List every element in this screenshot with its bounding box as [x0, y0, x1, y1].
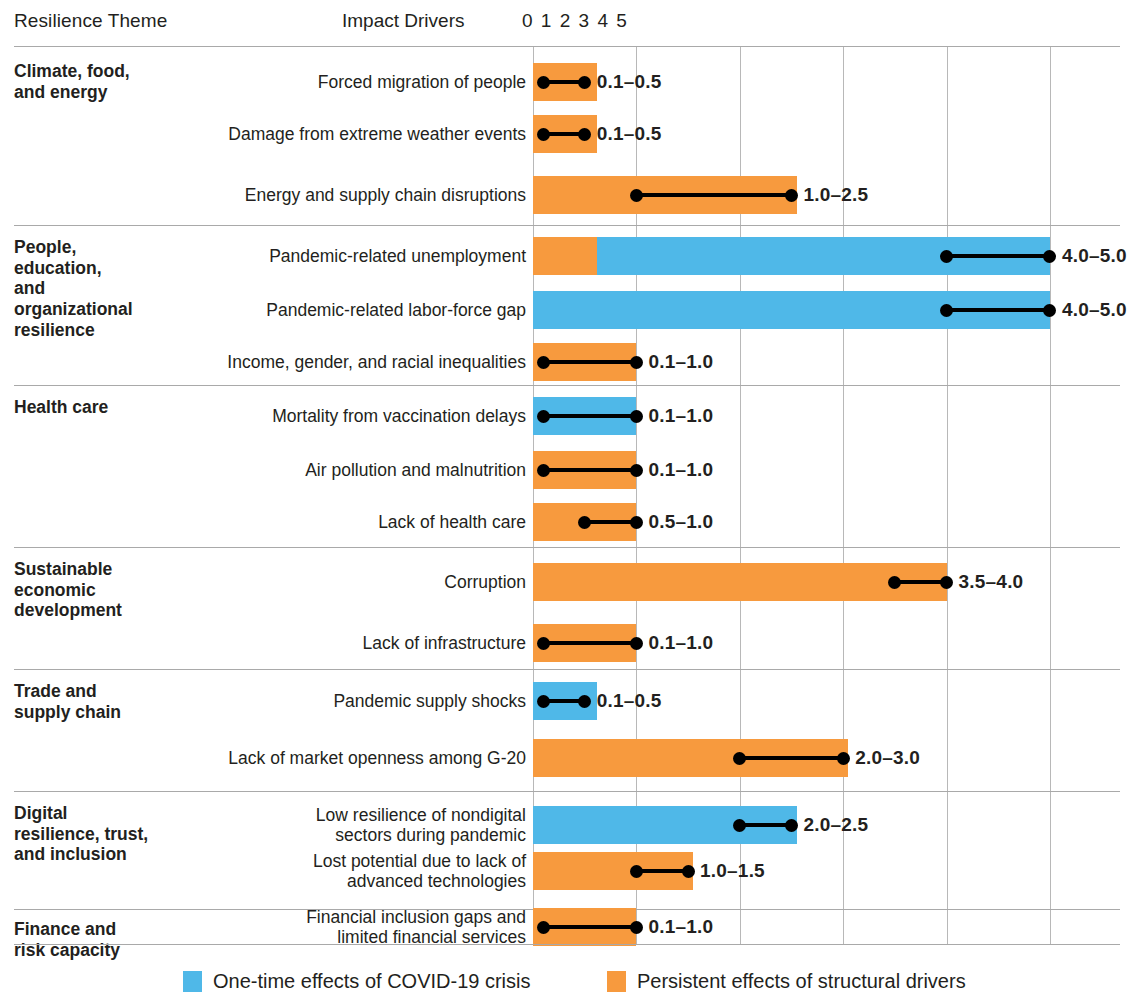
range-dot-high [785, 819, 798, 832]
range-value-label: 2.0–3.0 [855, 747, 920, 769]
impact-driver-label: Forced migration of people [96, 72, 526, 92]
chart-row: Low resilience of nondigitalsectors duri… [0, 806, 1134, 844]
axis-tick-labels: 0 1 2 3 4 5 [522, 10, 628, 32]
chart-row: Lack of health care0.5–1.0 [0, 503, 1134, 541]
range-marker [543, 397, 636, 435]
range-value-label: 2.0–2.5 [804, 814, 869, 836]
range-line [947, 308, 1050, 312]
range-line [740, 756, 843, 760]
range-marker [636, 176, 791, 214]
range-marker [543, 63, 584, 101]
range-marker [543, 624, 636, 662]
range-dot-low [537, 356, 550, 369]
range-value-label: 1.0–1.5 [700, 860, 765, 882]
range-value-label: 4.0–5.0 [1062, 245, 1127, 267]
range-value-label: 3.5–4.0 [959, 571, 1024, 593]
range-value-label: 0.1–1.0 [648, 916, 713, 938]
impact-driver-label-line: Energy and supply chain disruptions [96, 185, 526, 205]
range-dot-low [733, 752, 746, 765]
range-line [543, 414, 636, 418]
impact-driver-label-line: Damage from extreme weather events [96, 124, 526, 144]
chart-row: Lost potential due to lack ofadvanced te… [0, 852, 1134, 890]
range-line [740, 823, 792, 827]
chart-row: Lack of infrastructure0.1–1.0 [0, 624, 1134, 662]
range-dot-high [837, 752, 850, 765]
range-marker [740, 806, 792, 844]
range-dot-low [537, 637, 550, 650]
range-value-label: 0.1–0.5 [597, 71, 662, 93]
column-header-resilience-theme: Resilience Theme [14, 10, 167, 32]
range-dot-high [630, 410, 643, 423]
column-header-impact-drivers: Impact Drivers [342, 10, 464, 32]
chart-bottom-rule [14, 944, 1120, 945]
range-dot-high [682, 865, 695, 878]
impact-driver-label: Air pollution and malnutrition [96, 460, 526, 480]
impact-driver-label-line: Lost potential due to lack of [96, 851, 526, 871]
chart-row: Corruption3.5–4.0 [0, 563, 1134, 601]
chart-row: Lack of market openness among G-202.0–3.… [0, 739, 1134, 777]
range-value-label: 0.5–1.0 [648, 511, 713, 533]
range-marker [636, 852, 688, 890]
range-dot-low [537, 695, 550, 708]
range-marker [543, 682, 584, 720]
impact-driver-label: Lack of health care [96, 512, 526, 532]
range-line [543, 468, 636, 472]
range-line [636, 869, 688, 873]
legend-label: Persistent effects of structural drivers [637, 970, 966, 993]
bar [533, 563, 947, 601]
range-dot-high [578, 76, 591, 89]
group-divider [14, 791, 1120, 792]
impact-driver-label: Lost potential due to lack ofadvanced te… [96, 851, 526, 892]
range-value-label: 0.1–0.5 [597, 123, 662, 145]
impact-driver-label: Pandemic supply shocks [96, 691, 526, 711]
impact-driver-label: Lack of infrastructure [96, 633, 526, 653]
range-line [895, 580, 947, 584]
impact-driver-label: Energy and supply chain disruptions [96, 185, 526, 205]
chart-row: Pandemic-related labor-force gap4.0–5.0 [0, 291, 1134, 329]
range-dot-low [578, 516, 591, 529]
impact-driver-label-line: Air pollution and malnutrition [96, 460, 526, 480]
impact-driver-label-line: Lack of market openness among G-20 [96, 748, 526, 768]
legend: One-time effects of COVID-19 crisisPersi… [0, 962, 1134, 1002]
range-dot-low [630, 189, 643, 202]
impact-driver-label-line: Pandemic-related unemployment [96, 246, 526, 266]
range-value-label: 0.1–1.0 [648, 405, 713, 427]
range-line [543, 925, 636, 929]
range-marker [543, 908, 636, 946]
bar-segment-persistent [533, 563, 947, 601]
range-dot-low [733, 819, 746, 832]
chart-row: Mortality from vaccination delays0.1–1.0 [0, 397, 1134, 435]
range-marker [543, 343, 636, 381]
impact-driver-label: Corruption [96, 572, 526, 592]
range-dot-low [630, 865, 643, 878]
range-line [947, 254, 1050, 258]
range-dot-low [537, 410, 550, 423]
range-value-label: 0.1–1.0 [648, 351, 713, 373]
impact-driver-label-line: sectors during pandemic [96, 825, 526, 845]
legend-label: One-time effects of COVID-19 crisis [213, 970, 531, 993]
impact-driver-label: Income, gender, and racial inequalities [96, 352, 526, 372]
range-dot-low [537, 921, 550, 934]
range-dot-high [785, 189, 798, 202]
impact-driver-label-line: Pandemic supply shocks [96, 691, 526, 711]
impact-driver-label-line: Low resilience of nondigital [96, 805, 526, 825]
impact-driver-label-line: advanced technologies [96, 871, 526, 891]
impact-driver-label-line: Financial inclusion gaps and [96, 907, 526, 927]
impact-driver-label: Lack of market openness among G-20 [96, 748, 526, 768]
legend-swatch-persistent [607, 971, 626, 992]
range-value-label: 0.1–1.0 [648, 459, 713, 481]
range-dot-high [1043, 250, 1056, 263]
range-dot-low [537, 464, 550, 477]
impact-driver-label: Pandemic-related labor-force gap [96, 300, 526, 320]
theme-label-line: development [14, 600, 214, 621]
impact-driver-label: Mortality from vaccination delays [96, 406, 526, 426]
impact-driver-label-line: Mortality from vaccination delays [96, 406, 526, 426]
range-dot-high [578, 128, 591, 141]
range-dot-low [888, 576, 901, 589]
impact-driver-label-line: Corruption [96, 572, 526, 592]
range-value-label: 1.0–2.5 [804, 184, 869, 206]
impact-driver-label: Pandemic-related unemployment [96, 246, 526, 266]
range-value-label: 0.1–0.5 [597, 690, 662, 712]
range-dot-high [940, 576, 953, 589]
impact-driver-label: Low resilience of nondigitalsectors duri… [96, 805, 526, 846]
